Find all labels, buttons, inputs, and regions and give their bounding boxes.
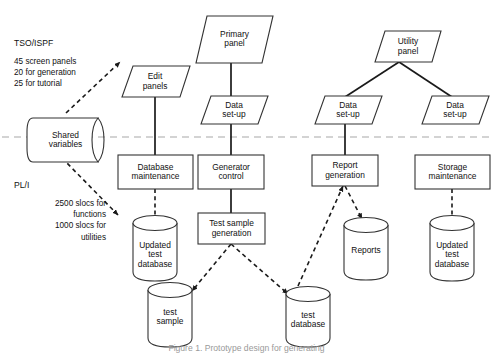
node-updated-test-database-left[interactable]	[133, 216, 177, 282]
connector-utility-to-datasetup3	[399, 62, 452, 97]
annotation-pl-i-line-2: 1000 slocs for	[6, 220, 106, 231]
annotation-pl-i-line-3: utilities	[6, 232, 106, 243]
node-test-sample-generation[interactable]	[198, 213, 265, 244]
annotation-tso-ispf-line-2: 25 for tutorial	[14, 78, 114, 89]
node-reports[interactable]	[344, 218, 388, 281]
node-data-setup-1[interactable]	[201, 96, 268, 124]
flow-testsamplegen-to-test-database	[231, 244, 288, 294]
node-generator-control[interactable]	[198, 155, 264, 189]
node-test-database[interactable]	[286, 287, 330, 348]
node-storage-maintenance[interactable]	[415, 155, 490, 189]
node-database-maintenance[interactable]	[118, 155, 193, 189]
annotation-pl-i-line-0: 2500 slocs for	[6, 198, 106, 209]
node-primary-panel[interactable]	[196, 16, 273, 63]
node-utility-panel[interactable]	[375, 31, 441, 62]
node-shared-variables[interactable]	[27, 118, 104, 162]
flow-testsamplegen-to-test-sample	[192, 244, 231, 291]
flow-report-generation-to-reports	[345, 186, 362, 219]
node-report-generation[interactable]	[312, 155, 378, 186]
node-edit-panels[interactable]	[122, 66, 190, 97]
node-updated-test-database-right[interactable]	[430, 216, 474, 282]
annotation-pl-i: PL/I 2500 slocs for functions 1000 slocs…	[6, 180, 106, 243]
flow-test-database-to-report-generation	[298, 186, 343, 286]
annotation-tso-ispf: TSO/ISPF 45 screen panels 20 for generat…	[14, 38, 114, 90]
annotation-tso-ispf-line-1: 20 for generation	[14, 67, 114, 78]
annotation-pl-i-header: PL/I	[6, 180, 106, 192]
node-data-setup-2[interactable]	[315, 96, 382, 124]
annotation-pl-i-line-1: functions	[6, 209, 106, 220]
node-data-setup-3[interactable]	[422, 96, 489, 124]
node-test-sample[interactable]	[148, 283, 192, 348]
annotation-tso-ispf-line-0: 45 screen panels	[14, 56, 114, 67]
annotation-tso-ispf-header: TSO/ISPF	[14, 38, 114, 50]
figure-caption: Figure 1. Prototype design for generatin…	[0, 343, 493, 353]
connector-utility-to-datasetup2	[345, 62, 399, 97]
